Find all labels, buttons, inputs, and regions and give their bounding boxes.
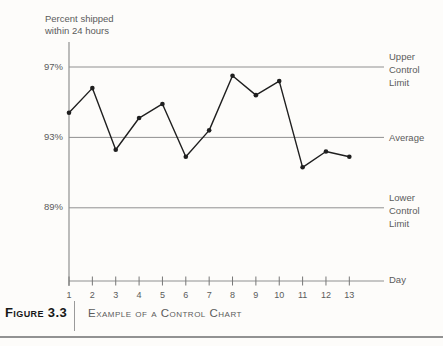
day-tick-label: 7	[207, 290, 212, 300]
data-point	[113, 147, 118, 152]
lcl-line3: Limit	[389, 217, 420, 230]
data-point	[324, 149, 329, 154]
caption-divider	[74, 301, 75, 331]
bottom-rule	[0, 336, 443, 338]
day-tick-label: 4	[137, 290, 142, 300]
average-label: Average	[389, 131, 424, 144]
day-tick-label: 1	[66, 290, 71, 300]
data-point	[67, 110, 72, 115]
data-point	[90, 86, 95, 91]
day-tick-label: 2	[90, 290, 95, 300]
data-point	[160, 102, 165, 107]
data-point	[277, 79, 282, 84]
upper-control-limit-label: Upper Control Limit	[389, 50, 420, 89]
ucl-line3: Limit	[389, 76, 420, 89]
day-tick-label: 13	[344, 290, 354, 300]
data-point	[254, 93, 259, 98]
data-point	[207, 128, 212, 133]
page-container: Percent shipped within 24 hours 12345678…	[0, 0, 443, 346]
lcl-line1: Lower	[389, 191, 420, 204]
day-tick-label: 9	[253, 290, 258, 300]
day-tick-label: 10	[274, 290, 284, 300]
average-line1: Average	[389, 131, 424, 144]
control-chart-plot: 12345678910111213	[0, 0, 443, 346]
figure-caption-title: Example of a Control Chart	[88, 307, 242, 319]
ytick-label-average: 93%	[25, 131, 63, 143]
day-tick-label: 12	[321, 290, 331, 300]
day-tick-label: 8	[230, 290, 235, 300]
data-point	[230, 74, 235, 79]
day-tick-label: 3	[113, 290, 118, 300]
day-tick-label: 11	[298, 290, 307, 300]
ytick-label-lcl: 89%	[25, 201, 63, 213]
data-point	[347, 154, 352, 159]
data-series-line	[69, 76, 349, 168]
data-point	[137, 116, 142, 121]
day-tick-label: 6	[183, 290, 188, 300]
lower-control-limit-label: Lower Control Limit	[389, 191, 420, 230]
figure-caption-label: Figure 3.3	[5, 305, 67, 320]
ucl-line2: Control	[389, 63, 420, 76]
data-point	[300, 165, 305, 170]
ytick-label-ucl: 97%	[25, 61, 63, 73]
x-axis-day-label: Day	[389, 274, 406, 286]
data-point	[184, 154, 189, 159]
ucl-line1: Upper	[389, 50, 420, 63]
lcl-line2: Control	[389, 204, 420, 217]
day-tick-label: 5	[160, 290, 165, 300]
